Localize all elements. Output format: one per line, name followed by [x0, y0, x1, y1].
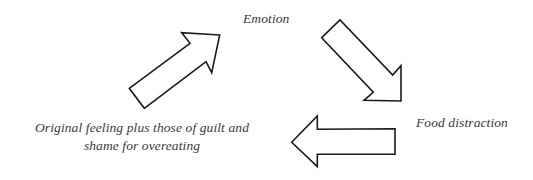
node-label-original-feeling: Original feeling plus those of guilt and… — [20, 119, 264, 155]
arrow-up-right-icon — [129, 33, 219, 109]
node-label-emotion: Emotion — [243, 10, 289, 28]
arrow-down-right-icon — [322, 20, 401, 101]
cycle-diagram: Emotion Food distraction Original feelin… — [0, 0, 533, 180]
node-label-food-distraction: Food distraction — [416, 114, 508, 132]
node-label-original-line-1: Original feeling plus those of guilt and — [20, 119, 264, 137]
node-label-original-line-2: shame for overeating — [20, 137, 264, 155]
arrow-left-icon — [292, 116, 395, 167]
